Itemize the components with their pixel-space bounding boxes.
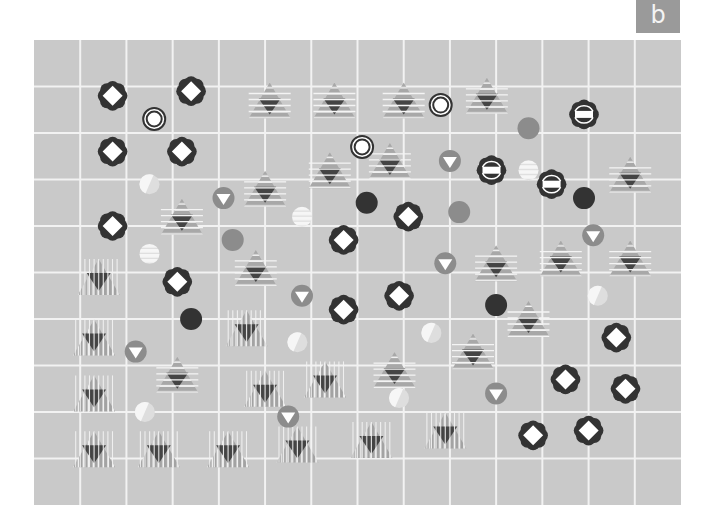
tri-down-circle-symbol	[277, 406, 299, 428]
tri-down-circle-symbol	[213, 187, 235, 209]
dot-dark-symbol	[356, 192, 378, 214]
tri-down-circle-symbol	[485, 382, 507, 404]
dot-light-half-symbol	[421, 323, 441, 343]
dot-dark-symbol	[573, 187, 595, 209]
dot-light-half-symbol	[287, 332, 307, 352]
dot-light-striped-symbol	[292, 207, 312, 227]
flower-symbol	[551, 365, 581, 395]
flower-symbol	[393, 202, 423, 232]
flower-symbol	[329, 225, 359, 255]
tri-down-circle-symbol	[582, 224, 604, 246]
flower-symbol	[518, 420, 548, 450]
flower-bar-symbol	[477, 155, 507, 185]
flower-symbol	[98, 81, 128, 111]
tri-down-circle-symbol	[291, 285, 313, 307]
tri-down-circle-symbol	[439, 150, 461, 172]
tri-down-circle-symbol	[434, 252, 456, 274]
flower-symbol	[329, 295, 359, 325]
symbol-grid	[0, 0, 711, 528]
ring-symbol	[430, 94, 452, 116]
ring-symbol	[351, 136, 373, 158]
dot-dark-symbol	[485, 294, 507, 316]
flower-symbol	[98, 211, 128, 241]
dot-mid-symbol	[222, 229, 244, 251]
dot-light-half-symbol	[139, 174, 159, 194]
flower-symbol	[601, 323, 631, 353]
flower-bar-symbol	[537, 169, 567, 199]
flower-symbol	[574, 416, 604, 446]
flower-symbol	[162, 267, 192, 297]
flower-bar-symbol	[569, 100, 599, 130]
dot-light-striped-symbol	[519, 160, 539, 180]
dot-light-half-symbol	[389, 388, 409, 408]
ring-symbol	[143, 108, 165, 130]
dot-mid-symbol	[448, 201, 470, 223]
flower-symbol	[167, 137, 197, 167]
flower-symbol	[176, 76, 206, 106]
tri-down-circle-symbol	[125, 341, 147, 363]
flower-symbol	[98, 137, 128, 167]
dot-light-half-symbol	[135, 402, 155, 422]
flower-symbol	[611, 374, 641, 404]
dot-light-half-symbol	[588, 286, 608, 306]
dot-dark-symbol	[180, 308, 202, 330]
dot-mid-symbol	[518, 117, 540, 139]
flower-symbol	[384, 281, 414, 311]
dot-light-striped-symbol	[140, 244, 160, 264]
